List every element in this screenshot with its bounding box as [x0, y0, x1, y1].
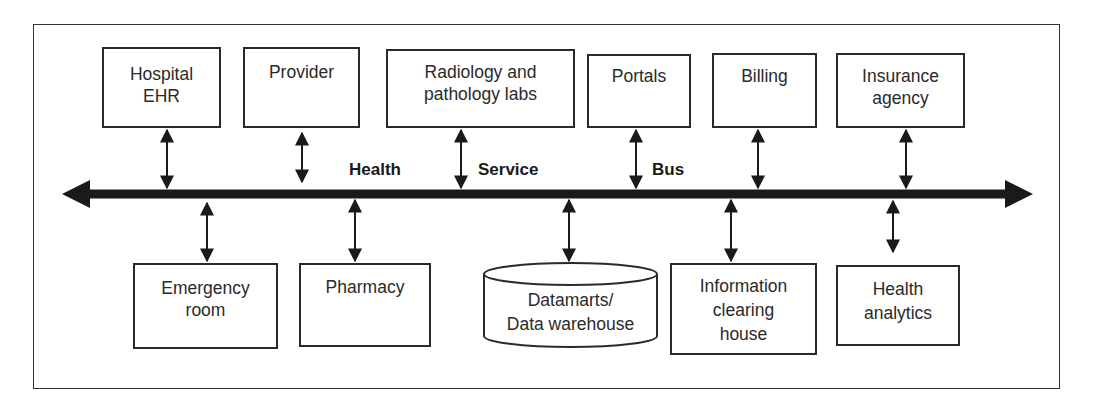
node-label-line: Health — [838, 277, 958, 301]
node-label-line: Radiology and — [388, 61, 573, 83]
node-label-line: Information — [672, 274, 815, 298]
node-pharmacy: Pharmacy — [299, 263, 431, 347]
node-label-line: Billing — [714, 65, 815, 87]
node-radiology-pathology-labs: Radiology and pathology labs — [386, 49, 575, 128]
node-label-line: Emergency — [135, 277, 276, 299]
node-emergency-room: Emergency room — [133, 263, 278, 349]
node-information-clearing-house: Information clearing house — [670, 263, 817, 355]
node-label-line: room — [135, 299, 276, 321]
node-label-line: pathology labs — [388, 83, 573, 105]
node-label-line: agency — [838, 87, 963, 109]
node-label-line: Portals — [589, 65, 689, 87]
node-health-analytics: Health analytics — [836, 265, 960, 346]
node-insurance-agency: Insurance agency — [836, 53, 965, 128]
node-label-line: Data warehouse — [484, 312, 657, 336]
node-label-line: Pharmacy — [301, 276, 429, 298]
node-portals: Portals — [587, 54, 691, 128]
bus-label-health: Health — [349, 160, 401, 180]
node-label-line: analytics — [838, 301, 958, 325]
bus-label-service: Service — [478, 160, 539, 180]
node-provider: Provider — [243, 47, 360, 128]
node-label-line: house — [672, 322, 815, 346]
node-label-line: Hospital — [104, 63, 219, 85]
bus-label-bus: Bus — [652, 160, 684, 180]
node-label-line: EHR — [104, 85, 219, 107]
node-label-line: Datamarts/ — [484, 288, 657, 312]
node-label-line: Provider — [245, 61, 358, 83]
node-hospital-ehr: Hospital EHR — [102, 47, 221, 128]
node-label-line: clearing — [672, 298, 815, 322]
node-label-line: Insurance — [838, 65, 963, 87]
node-billing: Billing — [712, 53, 817, 128]
node-datamarts-data-warehouse: Datamarts/ Data warehouse — [484, 288, 657, 336]
